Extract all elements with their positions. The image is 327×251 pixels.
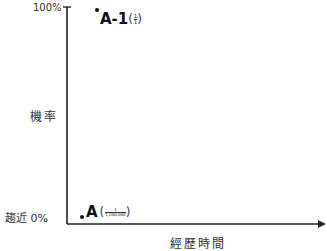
paren-close: ) xyxy=(137,12,142,26)
y-tick-near-zero: 趨近 0% xyxy=(5,209,48,225)
point-a-marker xyxy=(80,215,84,219)
point-a-label: A ( 1 1,000,000 ) xyxy=(86,203,130,221)
x-axis-label: 經歷時間 xyxy=(170,234,226,251)
y-tick-100: 100% xyxy=(33,2,62,13)
x-axis-arrow-icon xyxy=(318,220,326,228)
point-a1-label: A-1 ( 1 1 ) xyxy=(100,10,142,28)
y-axis-label: 機率 xyxy=(30,107,58,124)
paren-close: ) xyxy=(126,205,131,219)
fraction-denominator: 1,000,000 xyxy=(105,213,125,217)
point-a-name: A xyxy=(86,203,98,221)
paren-open: ( xyxy=(128,12,133,26)
point-a1-name: A-1 xyxy=(100,10,128,28)
point-a1-marker xyxy=(95,8,99,12)
paren-open: ( xyxy=(100,205,105,219)
point-a-fraction: 1 1,000,000 xyxy=(105,208,125,217)
